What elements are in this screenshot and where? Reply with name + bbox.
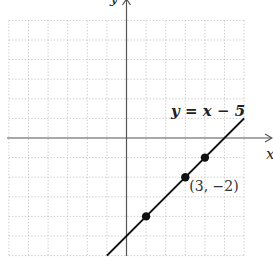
- y-axis-label: y: [109, 0, 119, 7]
- equation-label: y = x − 5: [170, 102, 245, 120]
- point-label: (3, −2): [189, 178, 238, 194]
- coordinate-plane: x y y = x − 5 (3, −2): [0, 0, 273, 268]
- data-point: [142, 212, 150, 220]
- data-point: [201, 153, 209, 161]
- x-axis-label: x: [266, 145, 273, 163]
- data-point: [181, 173, 189, 181]
